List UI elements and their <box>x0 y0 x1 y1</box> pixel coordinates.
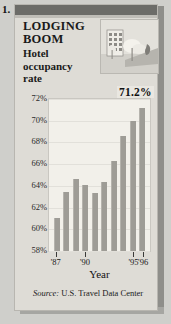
y-axis-tick-label: 62% <box>31 202 47 212</box>
bar <box>54 218 60 251</box>
y-axis-tick-label: 66% <box>31 158 47 168</box>
bar <box>101 182 107 251</box>
x-axis-title: Year <box>48 268 151 280</box>
x-axis-tick-label: '90 <box>80 257 90 267</box>
page-title: LODGING BOOM <box>23 20 105 46</box>
x-axis-tick-label: '96 <box>138 257 148 267</box>
bar <box>82 185 88 251</box>
top-band-highlight <box>15 15 157 18</box>
hotel-photo <box>100 19 159 74</box>
y-axis-tick-label: 70% <box>31 115 47 125</box>
source-prefix: Source: <box>33 288 59 298</box>
bar <box>130 121 136 251</box>
bar-series <box>49 99 150 251</box>
hotel-building-icon <box>101 20 158 73</box>
x-axis-tick-label: '95 <box>128 257 138 267</box>
y-axis-labels: 58%60%62%64%66%68%70%72% <box>17 93 47 257</box>
y-axis-tick-label: 72% <box>31 93 47 103</box>
infographic-card: LODGING BOOM Hotel occupancy rate 71.2% … <box>14 4 158 311</box>
chart-plot-area <box>48 98 151 252</box>
source-text: U.S. Travel Data Center <box>61 288 143 298</box>
bar <box>120 136 126 251</box>
bar <box>139 108 145 251</box>
source-note: Source: U.S. Travel Data Center <box>33 288 153 299</box>
bar <box>63 192 69 251</box>
y-axis-tick-label: 64% <box>31 180 47 190</box>
subtitle: Hotel occupancy rate <box>23 47 93 85</box>
item-number: 1. <box>2 3 10 15</box>
y-axis-tick-label: 60% <box>31 223 47 233</box>
bar <box>73 179 79 251</box>
bar <box>92 193 98 251</box>
callout-value: 71.2% <box>117 86 154 98</box>
y-axis-tick-label: 68% <box>31 136 47 146</box>
bar <box>111 161 117 251</box>
x-axis-tick-label: '87 <box>51 257 61 267</box>
top-band <box>15 5 157 15</box>
y-axis-tick-label: 58% <box>31 245 47 255</box>
